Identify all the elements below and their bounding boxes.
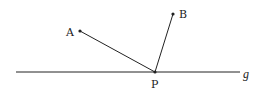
- segment-bp: [155, 14, 173, 72]
- geometry-diagram: A B P g: [0, 0, 260, 95]
- point-p-dot: [153, 70, 156, 73]
- diagram-svg: A B P g: [0, 0, 260, 95]
- point-b-label: B: [179, 8, 187, 21]
- line-g-label: g: [243, 67, 249, 81]
- point-a-label: A: [65, 26, 75, 39]
- point-b-dot: [171, 12, 174, 15]
- point-a-dot: [78, 29, 81, 32]
- segment-ap: [80, 31, 155, 72]
- point-p-label: P: [151, 78, 159, 91]
